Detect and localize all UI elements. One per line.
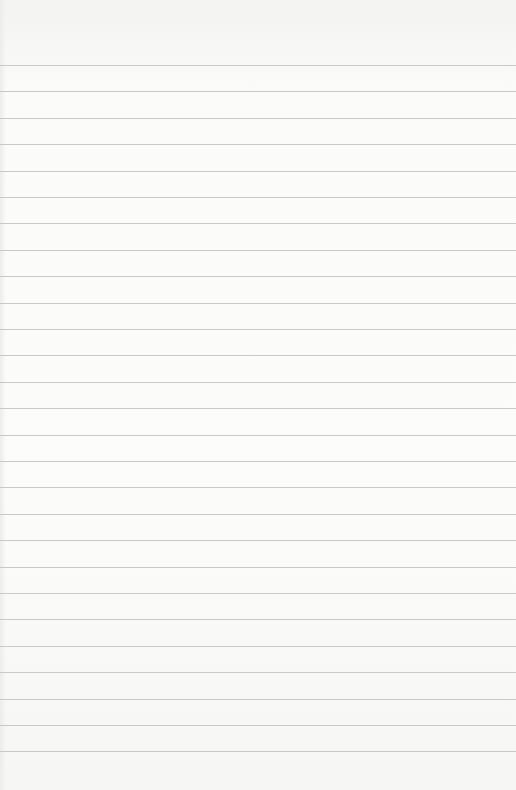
ruled-line — [0, 329, 516, 330]
ruled-line — [0, 619, 516, 620]
ruled-paper-sheet — [0, 0, 516, 790]
ruled-line — [0, 751, 516, 752]
ruled-line — [0, 408, 516, 409]
ruled-line — [0, 197, 516, 198]
ruled-line — [0, 250, 516, 251]
ruled-line — [0, 725, 516, 726]
ruled-line — [0, 223, 516, 224]
ruled-line — [0, 303, 516, 304]
ruled-line — [0, 276, 516, 277]
ruled-line — [0, 382, 516, 383]
ruled-line — [0, 91, 516, 92]
ruled-line — [0, 699, 516, 700]
ruled-line — [0, 461, 516, 462]
ruled-line — [0, 593, 516, 594]
ruled-line — [0, 672, 516, 673]
ruled-line — [0, 646, 516, 647]
ruled-line — [0, 540, 516, 541]
ruled-line — [0, 171, 516, 172]
ruled-line — [0, 355, 516, 356]
ruled-line — [0, 514, 516, 515]
ruled-line — [0, 118, 516, 119]
ruled-line — [0, 65, 516, 66]
ruled-line — [0, 487, 516, 488]
ruled-line — [0, 567, 516, 568]
ruled-line — [0, 435, 516, 436]
ruled-line — [0, 144, 516, 145]
